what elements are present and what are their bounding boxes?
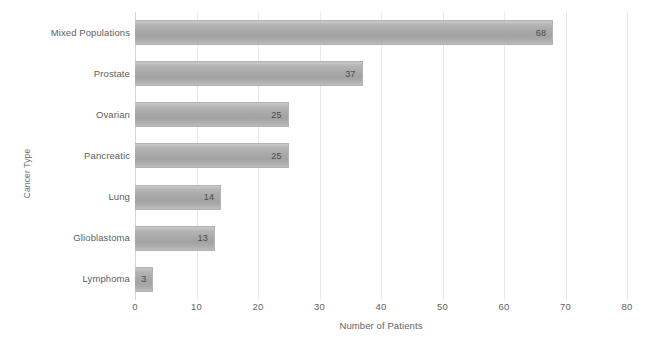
bar[interactable]: 25: [135, 102, 289, 127]
bar-value-label: 68: [536, 28, 552, 38]
plot-area: 6837252514133: [135, 12, 627, 300]
bar[interactable]: 14: [135, 185, 221, 210]
bar[interactable]: 68: [135, 20, 553, 45]
bar-value-label: 13: [198, 233, 214, 243]
y-axis-tick-label: Lung: [10, 191, 130, 202]
bar-row: 37: [135, 53, 627, 94]
bar-row: 68: [135, 12, 627, 53]
y-axis-tick-label: Prostate: [10, 68, 130, 79]
x-axis-tick-label: 60: [484, 301, 524, 312]
bar-value-label: 25: [271, 151, 287, 161]
bar[interactable]: 13: [135, 226, 215, 251]
bar-value-label: 25: [271, 110, 287, 120]
x-axis-tick-label: 10: [177, 301, 217, 312]
y-axis-tick-label: Mixed Populations: [10, 27, 130, 38]
y-axis-tick-labels: Mixed PopulationsProstateOvarianPancreat…: [5, 12, 130, 300]
bar-value-label: 37: [345, 69, 361, 79]
bar-chart: Cancer Type Mixed PopulationsProstateOva…: [0, 0, 659, 347]
bar-row: 14: [135, 177, 627, 218]
x-axis-tick-label: 70: [546, 301, 586, 312]
bar-row: 25: [135, 135, 627, 176]
bar-value-label: 14: [204, 192, 220, 202]
x-axis-tick-label: 30: [300, 301, 340, 312]
y-axis-tick-label: Ovarian: [10, 109, 130, 120]
y-axis-tick-label: Glioblastoma: [10, 232, 130, 243]
x-axis-tick-label: 50: [423, 301, 463, 312]
x-axis-title: Number of Patients: [135, 320, 627, 331]
bar[interactable]: 3: [135, 267, 153, 292]
bar-value-label: 3: [141, 274, 152, 284]
y-axis-tick-label: Lymphoma: [10, 273, 130, 284]
x-axis-tick-label: 0: [115, 301, 155, 312]
bar-row: 13: [135, 218, 627, 259]
gridline-80: [627, 12, 628, 300]
bar[interactable]: 37: [135, 61, 363, 86]
x-axis-tick-label: 40: [361, 301, 401, 312]
x-axis-tick-labels: 01020304050607080: [135, 301, 627, 319]
bar-row: 3: [135, 259, 627, 300]
bar-row: 25: [135, 94, 627, 135]
x-axis-tick-label: 20: [238, 301, 278, 312]
bar[interactable]: 25: [135, 143, 289, 168]
y-axis-tick-label: Pancreatic: [10, 150, 130, 161]
x-axis-tick-label: 80: [607, 301, 647, 312]
